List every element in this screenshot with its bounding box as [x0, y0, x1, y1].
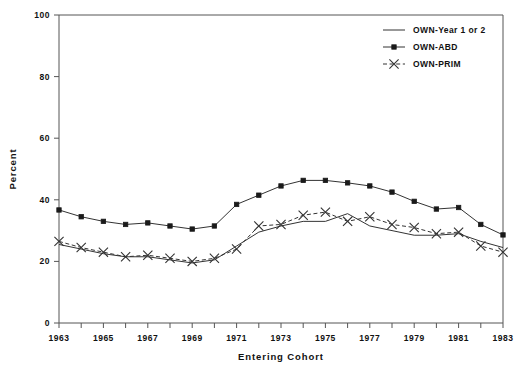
- x-tick-label: 1971: [226, 333, 247, 343]
- data-point-marker: [254, 221, 263, 230]
- series-line: [59, 212, 503, 261]
- data-point-marker: [479, 222, 483, 226]
- data-point-marker: [432, 229, 441, 238]
- legend: OWN-Year 1 or 2OWN-ABDOWN-PRIM: [383, 25, 486, 69]
- legend-label: OWN-ABD: [413, 42, 458, 52]
- y-axis: 020406080100: [34, 10, 59, 328]
- legend-item[interactable]: OWN-ABD: [383, 42, 458, 52]
- data-point-marker: [99, 248, 108, 257]
- series-2: [54, 208, 507, 266]
- data-point-marker: [501, 233, 505, 237]
- series-1: [57, 178, 505, 237]
- data-point-marker: [101, 219, 105, 223]
- data-point-marker: [387, 220, 396, 229]
- data-point-marker: [434, 207, 438, 211]
- data-point-marker: [476, 241, 485, 250]
- data-point-marker: [456, 205, 460, 209]
- x-tick-label: 1975: [315, 333, 336, 343]
- data-point-marker: [257, 193, 261, 197]
- data-point-marker: [146, 221, 150, 225]
- data-point-marker: [234, 202, 238, 206]
- x-axis-title: Entering Cohort: [238, 351, 324, 362]
- data-point-marker: [412, 199, 416, 203]
- data-point-marker: [123, 222, 127, 226]
- x-tick-label: 1963: [49, 333, 70, 343]
- data-point-marker: [345, 181, 349, 185]
- legend-label: OWN-Year 1 or 2: [413, 25, 486, 35]
- x-axis: 1963196519671969197119731975197719791981…: [49, 323, 514, 343]
- y-axis-title: Percent: [7, 148, 18, 189]
- data-point-marker: [301, 178, 305, 182]
- line-chart: 0204060801001963196519671969197119731975…: [0, 0, 532, 373]
- series-line: [59, 214, 503, 263]
- legend-item[interactable]: OWN-PRIM: [383, 59, 461, 69]
- data-point-marker: [392, 45, 396, 49]
- y-tick-label: 80: [40, 72, 50, 82]
- y-tick-label: 40: [40, 195, 50, 205]
- legend-item[interactable]: OWN-Year 1 or 2: [383, 25, 486, 35]
- data-point-marker: [57, 208, 61, 212]
- data-point-marker: [190, 227, 194, 231]
- x-tick-label: 1983: [493, 333, 514, 343]
- data-point-marker: [79, 215, 83, 219]
- x-tick-label: 1979: [404, 333, 425, 343]
- y-tick-label: 20: [40, 256, 50, 266]
- data-point-marker: [168, 224, 172, 228]
- data-point-marker: [390, 190, 394, 194]
- data-point-marker: [165, 254, 174, 263]
- data-point-marker: [368, 184, 372, 188]
- data-point-marker: [323, 178, 327, 182]
- x-tick-label: 1977: [359, 333, 380, 343]
- data-point-marker: [299, 211, 308, 220]
- chart-container: 0204060801001963196519671969197119731975…: [0, 0, 532, 373]
- x-tick-label: 1965: [93, 333, 114, 343]
- y-tick-label: 100: [34, 10, 50, 20]
- data-point-marker: [212, 224, 216, 228]
- data-point-marker: [343, 217, 352, 226]
- data-point-marker: [365, 212, 374, 221]
- x-tick-label: 1969: [182, 333, 203, 343]
- y-tick-label: 0: [45, 318, 50, 328]
- data-point-marker: [77, 243, 86, 252]
- series-0: [59, 214, 503, 263]
- data-point-marker: [279, 184, 283, 188]
- legend-label: OWN-PRIM: [413, 59, 461, 69]
- x-tick-label: 1973: [271, 333, 292, 343]
- x-tick-label: 1967: [137, 333, 158, 343]
- x-tick-label: 1981: [448, 333, 469, 343]
- y-tick-label: 60: [40, 133, 50, 143]
